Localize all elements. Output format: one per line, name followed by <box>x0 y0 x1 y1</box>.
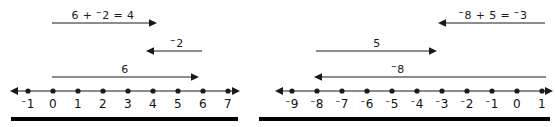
raised-minus-sign: – <box>310 97 315 106</box>
tick-label: –3 <box>435 98 448 110</box>
raised-minus-sign: – <box>485 97 490 106</box>
number-line-figure: 6 + –2 = 4 –2 6 <box>0 0 555 127</box>
arrow-row-sum-left: 6 + –2 = 4 <box>0 0 250 30</box>
tick-label: –2 <box>460 98 473 110</box>
tick-label: –9 <box>285 98 298 110</box>
raised-minus-sign: – <box>21 97 26 106</box>
arrow-glyph-six <box>0 70 250 84</box>
bottom-rule-left <box>11 117 238 121</box>
number-line-left: –1 0 1 2 3 4 5 6 7 <box>0 84 250 110</box>
tick-label: –7 <box>335 98 348 110</box>
tick-label: 4 <box>149 98 157 110</box>
bottom-rule-right <box>259 117 550 121</box>
tick-label: 5 <box>174 98 182 110</box>
raised-minus-sign: – <box>435 97 440 106</box>
tick-label: –1 <box>21 98 34 110</box>
raised-minus-sign: – <box>460 97 465 106</box>
arrow-row-sum-right: –8 + 5 = –3 <box>258 0 555 30</box>
tick-label: –1 <box>485 98 498 110</box>
tick-label: 0 <box>513 98 521 110</box>
tick-label: –5 <box>385 98 398 110</box>
tick-label: 3 <box>124 98 132 110</box>
arrow-row-six: 6 <box>0 54 250 84</box>
tick-label: –4 <box>410 98 423 110</box>
number-line-left-axis <box>0 84 250 98</box>
tick-label: 2 <box>99 98 107 110</box>
panel-left: 6 + –2 = 4 –2 6 <box>0 0 250 127</box>
tick-label: –6 <box>360 98 373 110</box>
tick-label: 6 <box>199 98 207 110</box>
number-line-right: –9 –8 –7 –6 –5 –4 –3 –2 –1 0 1 <box>258 84 555 110</box>
raised-minus-sign: – <box>385 97 390 106</box>
raised-minus-sign: – <box>410 97 415 106</box>
tick-label: 1 <box>538 98 546 110</box>
arrow-glyph-negative-eight <box>258 70 555 84</box>
panel-right: –8 + 5 = –3 5 –8 <box>258 0 555 127</box>
number-line-right-axis <box>258 84 555 98</box>
tick-label: –8 <box>310 98 323 110</box>
tick-label: 1 <box>74 98 82 110</box>
arrow-row-negative-eight: –8 <box>258 54 555 84</box>
raised-minus-sign: – <box>335 97 340 106</box>
raised-minus-sign: – <box>285 97 290 106</box>
tick-label: 7 <box>224 98 232 110</box>
tick-label: 0 <box>49 98 57 110</box>
raised-minus-sign: – <box>360 97 365 106</box>
